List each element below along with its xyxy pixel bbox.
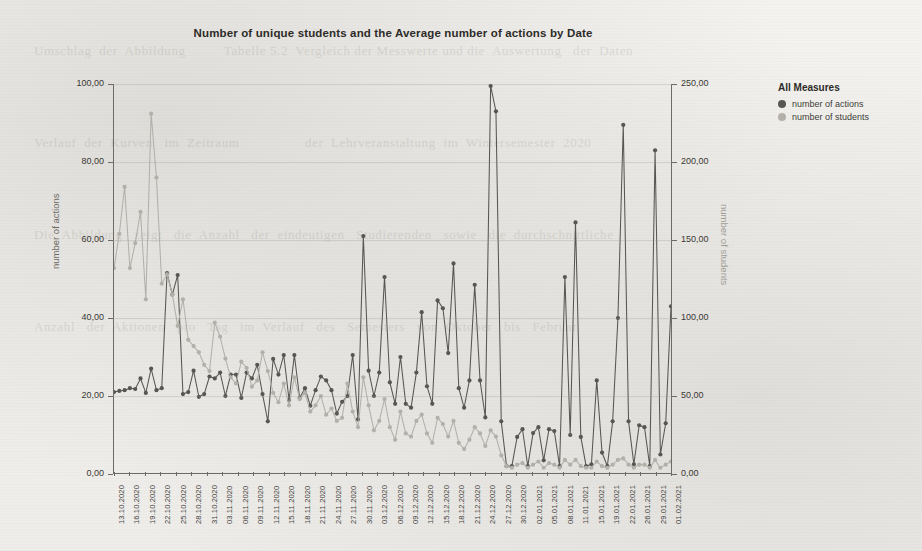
- x-axis-tick: [284, 472, 285, 476]
- x-axis-tick-label: 25.10.2020: [179, 485, 188, 524]
- x-axis-tick: [129, 472, 130, 476]
- x-axis-tick-label: 24.11.2020: [334, 486, 343, 524]
- x-axis-tick: [594, 472, 595, 476]
- legend-marker-icon: [778, 100, 786, 108]
- data-point: [377, 371, 381, 375]
- data-point: [117, 232, 121, 236]
- data-point: [271, 391, 275, 395]
- data-point: [250, 385, 254, 389]
- data-point: [128, 386, 132, 390]
- data-point: [648, 466, 652, 470]
- data-point: [361, 375, 365, 379]
- data-point: [462, 406, 466, 410]
- data-point: [409, 406, 413, 410]
- data-point: [467, 378, 471, 382]
- data-point: [160, 282, 164, 286]
- data-point: [563, 275, 567, 279]
- plot-area: 0,0020,0040,0060,0080,00100,00 0,0050,00…: [113, 84, 672, 474]
- data-point: [552, 429, 556, 433]
- data-point: [595, 378, 599, 382]
- data-point: [324, 413, 328, 417]
- data-point: [462, 447, 466, 451]
- data-point: [568, 433, 572, 437]
- data-point: [282, 353, 286, 357]
- data-point: [653, 148, 657, 152]
- x-axis-tick: [207, 472, 208, 476]
- data-point: [595, 459, 599, 463]
- data-point: [430, 402, 434, 406]
- data-point: [653, 458, 657, 462]
- x-axis-tick: [362, 472, 363, 476]
- gridline: [113, 396, 672, 397]
- x-axis-tick: [315, 472, 316, 476]
- data-point: [340, 416, 344, 420]
- x-axis-tick: [393, 472, 394, 476]
- data-point: [191, 369, 195, 373]
- series-points-number-of-students: [113, 112, 672, 470]
- x-axis-tick-label: 22.10.2020: [163, 485, 172, 524]
- gridline: [113, 318, 672, 319]
- data-point: [642, 463, 646, 467]
- x-axis-tick-label: 18.12.2020: [457, 485, 466, 524]
- data-point: [218, 335, 222, 339]
- x-axis-tick: [640, 472, 641, 476]
- legend-item-1[interactable]: number of students: [778, 112, 910, 122]
- x-axis-tick: [238, 472, 239, 476]
- legend-title: All Measures: [778, 82, 910, 93]
- series-points-number-of-actions: [113, 84, 672, 468]
- data-point: [531, 463, 535, 467]
- x-axis-tick-label: 31.10.2020: [210, 485, 219, 524]
- data-point: [441, 422, 445, 426]
- y-axis-right-tick-label: 250,00: [672, 78, 709, 88]
- x-axis-tick-label: 27.11.2020: [349, 486, 358, 524]
- x-axis-tick-label: 26.01.2021: [643, 485, 652, 524]
- x-axis-tick-label: 21.12.2020: [473, 485, 482, 524]
- data-point: [515, 463, 519, 467]
- data-point: [494, 434, 498, 438]
- x-axis-tick-label: 19.10.2020: [148, 485, 157, 524]
- y-axis-right-tick-label: 150,00: [672, 234, 709, 244]
- data-point: [404, 431, 408, 435]
- x-axis-tick: [176, 472, 177, 476]
- data-point: [335, 411, 339, 415]
- data-point: [160, 386, 164, 390]
- data-point: [478, 431, 482, 435]
- data-point: [351, 410, 355, 414]
- y-axis-left-tick-label: 60,00: [81, 234, 113, 244]
- data-point: [271, 357, 275, 361]
- data-point: [451, 261, 455, 265]
- x-axis-tick: [222, 472, 223, 476]
- gridline: [113, 240, 672, 241]
- data-point: [510, 466, 514, 470]
- data-point: [255, 363, 259, 367]
- data-point: [144, 297, 148, 301]
- x-axis-tick: [423, 472, 424, 476]
- y-axis-right-tick-label: 100,00: [672, 312, 709, 322]
- data-point: [531, 431, 535, 435]
- gridline: [113, 84, 672, 85]
- data-point: [345, 381, 349, 385]
- y-axis-right-tick-label: 200,00: [672, 156, 709, 166]
- data-point: [425, 431, 429, 435]
- data-point: [276, 372, 280, 376]
- data-point: [361, 234, 365, 238]
- data-point: [123, 388, 127, 392]
- data-point: [573, 220, 577, 224]
- x-axis-tick-label: 21.11.2020: [318, 486, 327, 524]
- y-axis-left-tick-label: 40,00: [81, 312, 113, 322]
- legend-item-0[interactable]: number of actions: [778, 99, 910, 109]
- y-axis-left-tick-label: 100,00: [76, 78, 113, 88]
- x-axis-tick: [439, 472, 440, 476]
- x-axis-tick: [331, 472, 332, 476]
- data-point: [292, 353, 296, 357]
- data-point: [398, 355, 402, 359]
- data-point: [467, 438, 471, 442]
- data-point: [473, 425, 477, 429]
- data-point: [372, 428, 376, 432]
- data-point: [377, 419, 381, 423]
- x-axis-tick-label: 15.11.2020: [287, 486, 296, 524]
- x-axis-tick-label: 03.11.2020: [225, 486, 234, 524]
- x-axis-tick-label: 11.01.2021: [581, 486, 590, 524]
- data-point: [266, 369, 270, 373]
- data-point: [266, 419, 270, 423]
